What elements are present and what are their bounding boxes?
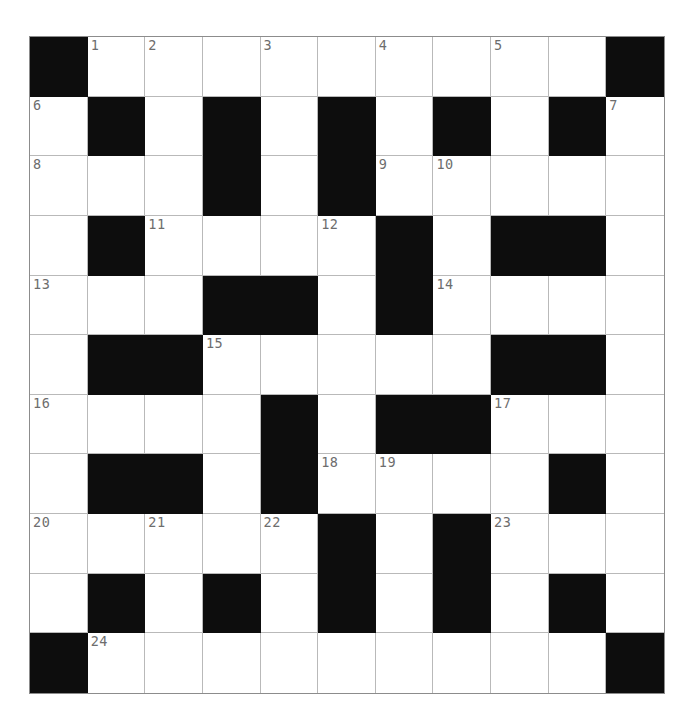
- crossword-open-cell[interactable]: [491, 97, 549, 157]
- crossword-open-cell[interactable]: [376, 514, 434, 574]
- crossword-block-cell: [549, 216, 607, 276]
- crossword-open-cell[interactable]: [606, 156, 664, 216]
- crossword-block-cell: [606, 633, 664, 693]
- crossword-open-cell[interactable]: [145, 574, 203, 634]
- crossword-open-cell[interactable]: 23: [491, 514, 549, 574]
- crossword-open-cell[interactable]: [203, 633, 261, 693]
- crossword-open-cell[interactable]: [549, 37, 607, 97]
- crossword-open-cell[interactable]: [30, 574, 88, 634]
- crossword-open-cell[interactable]: [261, 335, 319, 395]
- crossword-open-cell[interactable]: [549, 633, 607, 693]
- crossword-open-cell[interactable]: 19: [376, 454, 434, 514]
- crossword-open-cell[interactable]: 2: [145, 37, 203, 97]
- crossword-open-cell[interactable]: [203, 514, 261, 574]
- crossword-open-cell[interactable]: [376, 633, 434, 693]
- crossword-open-cell[interactable]: [30, 216, 88, 276]
- crossword-block-cell: [88, 335, 146, 395]
- crossword-open-cell[interactable]: [606, 514, 664, 574]
- crossword-open-cell[interactable]: [606, 216, 664, 276]
- crossword-open-cell[interactable]: 13: [30, 276, 88, 336]
- crossword-open-cell[interactable]: [433, 216, 491, 276]
- crossword-open-cell[interactable]: [549, 395, 607, 455]
- crossword-open-cell[interactable]: 9: [376, 156, 434, 216]
- crossword-block-cell: [88, 454, 146, 514]
- crossword-open-cell[interactable]: [203, 37, 261, 97]
- crossword-open-cell[interactable]: 21: [145, 514, 203, 574]
- crossword-open-cell[interactable]: 16: [30, 395, 88, 455]
- crossword-open-cell[interactable]: [145, 156, 203, 216]
- crossword-open-cell[interactable]: [203, 216, 261, 276]
- crossword-grid[interactable]: 123456789101112131415161718192021222324: [29, 36, 665, 694]
- crossword-open-cell[interactable]: [88, 156, 146, 216]
- crossword-open-cell[interactable]: [318, 633, 376, 693]
- crossword-open-cell[interactable]: [261, 574, 319, 634]
- crossword-open-cell[interactable]: [491, 574, 549, 634]
- crossword-open-cell[interactable]: [433, 454, 491, 514]
- crossword-open-cell[interactable]: [606, 276, 664, 336]
- crossword-open-cell[interactable]: [261, 97, 319, 157]
- crossword-open-cell[interactable]: [30, 454, 88, 514]
- crossword-open-cell[interactable]: [491, 276, 549, 336]
- crossword-open-cell[interactable]: [606, 335, 664, 395]
- crossword-open-cell[interactable]: [30, 335, 88, 395]
- crossword-open-cell[interactable]: [549, 514, 607, 574]
- crossword-open-cell[interactable]: [606, 574, 664, 634]
- crossword-open-cell[interactable]: [433, 633, 491, 693]
- crossword-open-cell[interactable]: [318, 335, 376, 395]
- crossword-open-cell[interactable]: [376, 97, 434, 157]
- crossword-open-cell[interactable]: 18: [318, 454, 376, 514]
- crossword-open-cell[interactable]: 7: [606, 97, 664, 157]
- crossword-open-cell[interactable]: [88, 514, 146, 574]
- crossword-open-cell[interactable]: 4: [376, 37, 434, 97]
- crossword-open-cell[interactable]: 11: [145, 216, 203, 276]
- crossword-block-cell: [203, 574, 261, 634]
- clue-number: 2: [148, 38, 157, 53]
- clue-number: 22: [264, 515, 281, 530]
- crossword-open-cell[interactable]: [203, 395, 261, 455]
- crossword-open-cell[interactable]: 14: [433, 276, 491, 336]
- crossword-open-cell[interactable]: [145, 633, 203, 693]
- clue-number: 6: [33, 98, 42, 113]
- crossword-open-cell[interactable]: 8: [30, 156, 88, 216]
- crossword-open-cell[interactable]: [145, 276, 203, 336]
- crossword-open-cell[interactable]: [606, 454, 664, 514]
- crossword-open-cell[interactable]: [433, 335, 491, 395]
- crossword-open-cell[interactable]: [549, 276, 607, 336]
- crossword-open-cell[interactable]: [318, 395, 376, 455]
- crossword-open-cell[interactable]: 15: [203, 335, 261, 395]
- crossword-open-cell[interactable]: [491, 633, 549, 693]
- crossword-open-cell[interactable]: [145, 97, 203, 157]
- crossword-open-cell[interactable]: [318, 276, 376, 336]
- crossword-open-cell[interactable]: [606, 395, 664, 455]
- crossword-open-cell[interactable]: [318, 37, 376, 97]
- crossword-open-cell[interactable]: 10: [433, 156, 491, 216]
- crossword-open-cell[interactable]: [261, 216, 319, 276]
- crossword-open-cell[interactable]: [145, 395, 203, 455]
- crossword-block-cell: [318, 574, 376, 634]
- crossword-open-cell[interactable]: 1: [88, 37, 146, 97]
- crossword-block-cell: [606, 37, 664, 97]
- crossword-open-cell[interactable]: [88, 395, 146, 455]
- crossword-open-cell[interactable]: [376, 335, 434, 395]
- crossword-open-cell[interactable]: [376, 574, 434, 634]
- crossword-open-cell[interactable]: [261, 156, 319, 216]
- crossword-open-cell[interactable]: 22: [261, 514, 319, 574]
- crossword-open-cell[interactable]: 6: [30, 97, 88, 157]
- clue-number: 19: [379, 455, 396, 470]
- crossword-open-cell[interactable]: 3: [261, 37, 319, 97]
- crossword-open-cell[interactable]: [203, 454, 261, 514]
- crossword-open-cell[interactable]: 17: [491, 395, 549, 455]
- crossword-block-cell: [203, 97, 261, 157]
- crossword-block-cell: [88, 216, 146, 276]
- crossword-open-cell[interactable]: 20: [30, 514, 88, 574]
- crossword-open-cell[interactable]: [491, 156, 549, 216]
- crossword-open-cell[interactable]: [491, 454, 549, 514]
- crossword-open-cell[interactable]: [433, 37, 491, 97]
- crossword-open-cell[interactable]: [261, 633, 319, 693]
- crossword-open-cell[interactable]: 5: [491, 37, 549, 97]
- crossword-open-cell[interactable]: [549, 156, 607, 216]
- clue-number: 9: [379, 157, 388, 172]
- crossword-open-cell[interactable]: [88, 276, 146, 336]
- crossword-open-cell[interactable]: 12: [318, 216, 376, 276]
- crossword-open-cell[interactable]: 24: [88, 633, 146, 693]
